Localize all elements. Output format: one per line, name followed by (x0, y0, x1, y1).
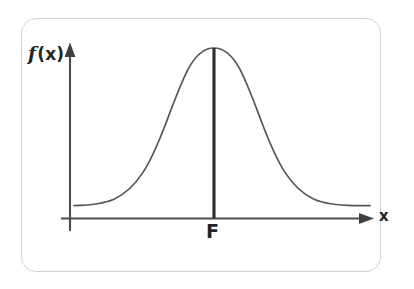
x-axis-label: x (379, 209, 389, 224)
y-axis-arrowhead (65, 43, 76, 58)
y-axis-label: f(x) (28, 45, 64, 64)
y-axis-label-f: f (28, 43, 37, 64)
mean-marker-label: F (206, 222, 219, 241)
y-axis (65, 43, 76, 232)
density-curve (74, 48, 370, 206)
figure-root: f(x) x F (0, 0, 414, 289)
x-axis-arrowhead (359, 213, 374, 224)
y-axis-label-arg: (x) (37, 44, 64, 64)
